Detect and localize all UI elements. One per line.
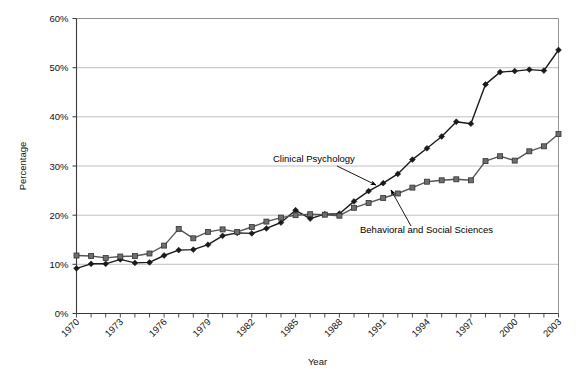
x-tick-label: 1991	[365, 316, 388, 339]
data-point-marker	[498, 154, 503, 159]
data-point-marker	[264, 226, 270, 232]
data-point-marker	[74, 265, 80, 271]
data-point-marker	[162, 243, 167, 248]
data-point-marker	[176, 226, 181, 231]
x-tick-label: 1997	[453, 316, 476, 339]
data-point-marker	[352, 205, 357, 210]
y-tick-label: 50%	[49, 62, 69, 73]
data-point-marker	[293, 213, 298, 218]
data-point-marker	[191, 236, 196, 241]
annotation-label: Behavioral and Social Sciences	[360, 224, 493, 235]
data-point-marker	[337, 213, 342, 218]
data-point-marker	[249, 231, 255, 237]
x-tick-label: 2003	[541, 316, 564, 339]
annotation-1: Clinical Psychology	[273, 153, 376, 185]
annotation-arrow	[337, 166, 376, 185]
x-tick-label: 1994	[409, 316, 432, 339]
data-point-marker	[512, 158, 517, 163]
data-point-marker	[468, 121, 474, 127]
x-axis-title-text: Year	[308, 356, 327, 367]
annotation-2: Behavioral and Social Sciences	[360, 190, 493, 235]
data-point-marker	[468, 178, 473, 183]
y-tick-label: 40%	[49, 111, 69, 122]
x-axis: 1970197319761979198219851988199119941997…	[59, 314, 564, 339]
data-point-marker	[132, 260, 138, 266]
data-point-marker	[249, 225, 254, 230]
data-point-marker	[308, 212, 313, 217]
data-point-marker	[132, 254, 137, 259]
data-point-marker	[118, 254, 123, 259]
x-tick-label: 1973	[102, 316, 125, 339]
x-tick-label: 2000	[497, 316, 520, 339]
data-point-marker	[454, 177, 459, 182]
data-point-marker	[103, 261, 109, 267]
x-tick-label: 1970	[59, 316, 82, 339]
y-tick-label: 0%	[55, 308, 69, 319]
y-axis: 0%10%20%30%40%50%60%	[49, 13, 76, 319]
data-point-marker	[512, 68, 518, 74]
y-axis-title-text: Percentage	[17, 142, 28, 191]
data-point-marker	[74, 253, 79, 258]
x-tick-label: 1985	[278, 316, 301, 339]
line-chart: 0%10%20%30%40%50%60%Percentage1970197319…	[0, 0, 577, 383]
y-tick-label: 30%	[49, 161, 69, 172]
data-point-marker	[541, 144, 546, 149]
data-point-marker	[176, 247, 182, 253]
annotation-arrow	[391, 190, 411, 226]
data-point-marker	[88, 261, 94, 267]
data-point-marker	[206, 229, 211, 234]
data-point-marker	[410, 185, 415, 190]
data-point-marker	[483, 159, 488, 164]
data-point-marker	[366, 200, 371, 205]
x-tick-label: 1976	[146, 316, 169, 339]
y-axis-title: Percentage	[17, 142, 28, 191]
data-point-marker	[190, 247, 196, 253]
data-point-marker	[556, 132, 561, 137]
data-point-marker	[103, 255, 108, 260]
y-tick-label: 60%	[49, 13, 69, 24]
annotation-label: Clinical Psychology	[273, 153, 355, 164]
data-point-marker	[381, 196, 386, 201]
y-tick-label: 10%	[49, 259, 69, 270]
data-point-marker	[264, 219, 269, 224]
data-point-marker	[147, 251, 152, 256]
x-tick-label: 1982	[234, 316, 257, 339]
data-point-marker	[161, 253, 167, 259]
data-point-marker	[279, 215, 284, 220]
data-point-marker	[89, 254, 94, 259]
data-point-marker	[322, 212, 327, 217]
data-point-marker	[395, 191, 400, 196]
series-2	[74, 132, 561, 261]
data-point-marker	[527, 149, 532, 154]
x-tick-label: 1988	[322, 316, 345, 339]
data-point-marker	[235, 229, 240, 234]
data-point-marker	[439, 178, 444, 183]
x-tick-label: 1979	[190, 316, 213, 339]
y-tick-label: 20%	[49, 210, 69, 221]
data-point-marker	[220, 227, 225, 232]
chart-container: 0%10%20%30%40%50%60%Percentage1970197319…	[0, 0, 577, 383]
data-point-marker	[425, 179, 430, 184]
